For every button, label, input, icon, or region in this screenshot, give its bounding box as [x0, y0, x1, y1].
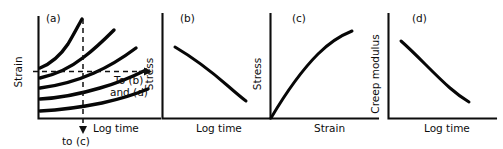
panel-c-xlabel: Strain [314, 122, 345, 134]
panel-a-label: (a) [46, 12, 61, 24]
figure-canvas: (a) Strain Log time To (b) and (d) to (c… [0, 0, 503, 149]
panel-b-xlabel: Log time [196, 122, 242, 134]
panel-d: (d) Creep modulus Log time [369, 12, 496, 134]
panel-c: (c) Stress Strain [251, 12, 378, 134]
panel-d-ylabel: Creep modulus [369, 34, 381, 113]
panel-a-note-to-b: To (b) [113, 74, 143, 86]
panel-a-xlabel: Log time [93, 122, 139, 134]
panel-b-label: (b) [180, 12, 195, 24]
panel-a-to-c-arrow-head [79, 126, 87, 134]
panel-a-note-to-c: to (c) [62, 135, 90, 147]
panel-d-xlabel: Log time [424, 122, 470, 134]
panel-b-curve-stress-relaxation [175, 47, 246, 101]
panel-d-curve-creep-modulus [401, 41, 469, 102]
panel-a-curve-5 [40, 19, 82, 68]
panel-c-label: (c) [292, 12, 306, 24]
panel-a: (a) Strain Log time To (b) and (d) to (c… [12, 12, 160, 147]
panel-a-ylabel: Strain [12, 56, 24, 87]
panel-d-axes [389, 14, 497, 119]
panel-b-ylabel: Stress [143, 58, 155, 90]
panel-c-ylabel: Stress [251, 58, 263, 90]
panel-c-curve-isochronous [271, 31, 352, 118]
panel-c-axes [271, 14, 379, 119]
panel-d-label: (d) [412, 12, 427, 24]
